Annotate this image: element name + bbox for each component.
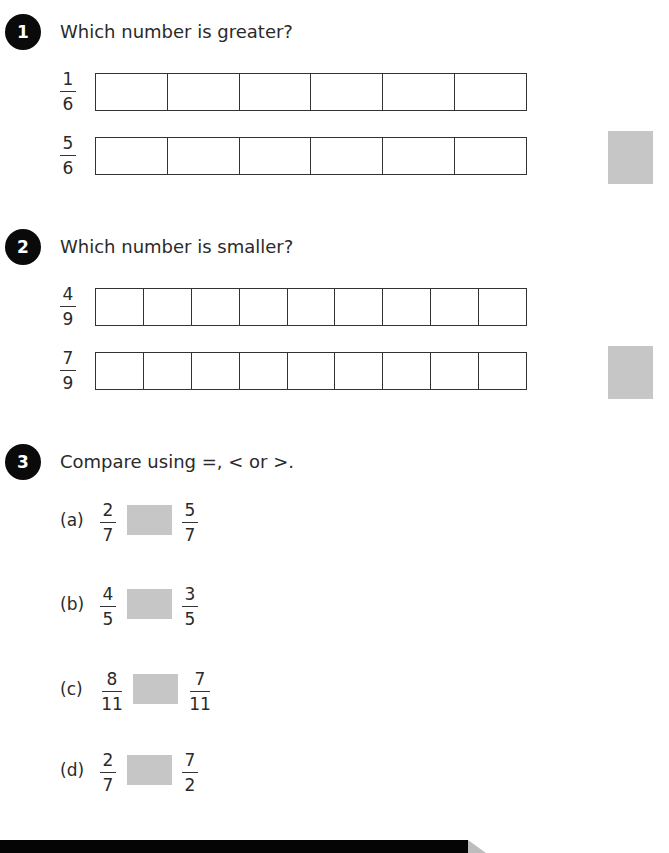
bar-cell[interactable] xyxy=(383,74,455,110)
question-3-prompt: Compare using =, < or >. xyxy=(60,451,294,472)
part-a-left-fraction: 2 7 xyxy=(97,502,119,544)
answer-box-q2[interactable] xyxy=(608,346,653,399)
bar-cell[interactable] xyxy=(240,289,288,325)
bar-cell[interactable] xyxy=(168,74,240,110)
part-c-answer-box[interactable] xyxy=(133,674,178,704)
denominator: 11 xyxy=(187,692,213,713)
question-2-badge: 2 xyxy=(5,229,41,265)
part-d-left-fraction: 2 7 xyxy=(97,752,119,794)
bar-cell[interactable] xyxy=(192,353,240,389)
part-b-label: (b) xyxy=(60,594,84,614)
bar-cell[interactable] xyxy=(96,138,168,174)
denominator: 7 xyxy=(179,523,201,544)
bar-cell[interactable] xyxy=(431,289,479,325)
part-c-left-fraction: 8 11 xyxy=(99,671,125,713)
part-c-label: (c) xyxy=(60,679,83,699)
numerator: 7 xyxy=(179,752,201,772)
bar-cell[interactable] xyxy=(144,289,192,325)
bar-cell[interactable] xyxy=(96,289,144,325)
part-a-right-fraction: 5 7 xyxy=(179,502,201,544)
question-number: 3 xyxy=(17,452,29,472)
part-c-right-fraction: 7 11 xyxy=(187,671,213,713)
numerator: 7 xyxy=(187,671,213,691)
denominator: 11 xyxy=(99,692,125,713)
bar-cell[interactable] xyxy=(383,289,431,325)
numerator: 2 xyxy=(97,752,119,772)
bar-cell[interactable] xyxy=(335,289,383,325)
bar-cell[interactable] xyxy=(479,353,526,389)
bar-cell[interactable] xyxy=(240,74,312,110)
bar-cell[interactable] xyxy=(383,138,455,174)
numerator: 4 xyxy=(97,586,119,606)
bar-cell[interactable] xyxy=(311,138,383,174)
fraction-5-6: 5 6 xyxy=(57,135,79,177)
bar-cell[interactable] xyxy=(288,353,336,389)
question-1-prompt: Which number is greater? xyxy=(60,21,293,42)
bar-cell[interactable] xyxy=(144,353,192,389)
bar-cell[interactable] xyxy=(96,353,144,389)
denominator: 9 xyxy=(57,307,79,328)
part-a-label: (a) xyxy=(60,510,84,530)
numerator: 4 xyxy=(57,286,79,306)
denominator: 5 xyxy=(97,607,119,628)
answer-box-q1[interactable] xyxy=(608,131,653,184)
fraction-bar-model-sixths-1[interactable] xyxy=(95,73,527,111)
question-3-badge: 3 xyxy=(5,444,41,480)
part-d-right-fraction: 7 2 xyxy=(179,752,201,794)
fraction-bar-model-ninths-2[interactable] xyxy=(95,352,527,390)
numerator: 5 xyxy=(179,502,201,522)
page-footer-bar xyxy=(0,840,468,853)
denominator: 7 xyxy=(97,773,119,794)
numerator: 3 xyxy=(179,586,201,606)
bar-cell[interactable] xyxy=(479,289,526,325)
part-d-answer-box[interactable] xyxy=(127,755,172,785)
bar-cell[interactable] xyxy=(383,353,431,389)
part-d-label: (d) xyxy=(60,760,84,780)
fraction-4-9: 4 9 xyxy=(57,286,79,328)
question-number: 2 xyxy=(17,237,29,257)
bar-cell[interactable] xyxy=(311,74,383,110)
bar-cell[interactable] xyxy=(96,74,168,110)
bar-cell[interactable] xyxy=(192,289,240,325)
denominator: 9 xyxy=(57,371,79,392)
bar-cell[interactable] xyxy=(240,138,312,174)
numerator: 5 xyxy=(57,135,79,155)
fraction-bar-model-ninths-1[interactable] xyxy=(95,288,527,326)
bar-cell[interactable] xyxy=(335,353,383,389)
fraction-1-6: 1 6 xyxy=(57,71,79,113)
bar-cell[interactable] xyxy=(168,138,240,174)
bar-cell[interactable] xyxy=(431,353,479,389)
denominator: 7 xyxy=(97,523,119,544)
question-1-badge: 1 xyxy=(5,14,41,50)
denominator: 6 xyxy=(57,92,79,113)
denominator: 5 xyxy=(179,607,201,628)
part-b-left-fraction: 4 5 xyxy=(97,586,119,628)
part-b-answer-box[interactable] xyxy=(127,589,172,619)
numerator: 8 xyxy=(99,671,125,691)
numerator: 2 xyxy=(97,502,119,522)
numerator: 7 xyxy=(57,350,79,370)
denominator: 6 xyxy=(57,156,79,177)
numerator: 1 xyxy=(57,71,79,91)
question-2-prompt: Which number is smaller? xyxy=(60,236,293,257)
fraction-7-9: 7 9 xyxy=(57,350,79,392)
bar-cell[interactable] xyxy=(288,289,336,325)
part-b-right-fraction: 3 5 xyxy=(179,586,201,628)
denominator: 2 xyxy=(179,773,201,794)
bar-cell[interactable] xyxy=(455,138,526,174)
footer-corner-triangle xyxy=(468,840,486,853)
fraction-bar-model-sixths-2[interactable] xyxy=(95,137,527,175)
bar-cell[interactable] xyxy=(240,353,288,389)
question-number: 1 xyxy=(17,22,29,42)
bar-cell[interactable] xyxy=(455,74,526,110)
part-a-answer-box[interactable] xyxy=(127,505,172,535)
